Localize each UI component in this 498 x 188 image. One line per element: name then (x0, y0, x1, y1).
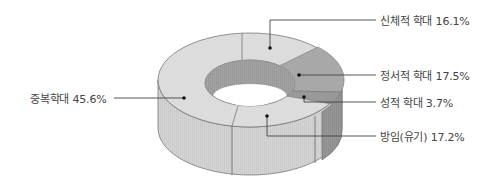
label-emotional-abuse: 정서적 학대 17.5% (380, 67, 470, 83)
label-sexual-abuse: 성적 학대 3.7% (380, 94, 453, 110)
label-neglect: 방임(유기) 17.2% (380, 128, 465, 144)
label-multiple-abuse: 중복학대 45.6% (30, 90, 106, 106)
label-physical-abuse: 신체적 학대 16.1% (380, 12, 470, 28)
donut-hole (223, 86, 277, 106)
